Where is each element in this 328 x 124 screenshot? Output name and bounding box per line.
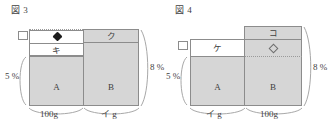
figure-3-right-percent-label: 8 % (150, 63, 164, 72)
figure-3-column-b-bottom-label: イ g (101, 110, 117, 119)
figure-4: 図 4 コ B ケ A 5 % 8 % イ g 100g (164, 0, 328, 124)
figure-3-brackets (0, 0, 164, 124)
figure-4-right-percent-label: 8 % (313, 63, 327, 72)
diagram-canvas: 図 3 ク B キ A 5 % 8 % 100g イ g (0, 0, 328, 124)
figure-4-left-percent-label: 5 % (166, 72, 180, 81)
figure-4-column-a-bottom-label: イ g (206, 110, 222, 119)
figure-4-brackets (164, 0, 328, 124)
figure-3: 図 3 ク B キ A 5 % 8 % 100g イ g (0, 0, 164, 124)
figure-3-left-percent-label: 5 % (5, 72, 19, 81)
figure-4-column-b-bottom-label: 100g (260, 110, 278, 119)
figure-3-column-a-bottom-label: 100g (40, 110, 58, 119)
